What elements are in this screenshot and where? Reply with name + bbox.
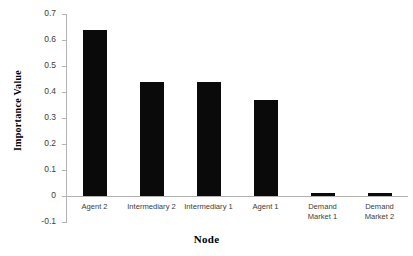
bar-group: Intermediary 2	[123, 14, 180, 222]
bars-layer: Agent 2Intermediary 2Intermediary 1Agent…	[66, 14, 408, 222]
y-axis-tick-label: 0.1	[44, 164, 56, 174]
plot-area: 0.70.60.50.40.30.20.10-0.1 Agent 2Interm…	[66, 14, 408, 222]
y-axis-tick-label: 0.4	[44, 86, 56, 96]
bar	[254, 100, 278, 196]
bar-group: Agent 1	[237, 14, 294, 222]
y-axis-tick-label: 0	[51, 190, 56, 200]
bar	[368, 193, 392, 196]
bar	[197, 82, 221, 196]
bar-group: Intermediary 1	[180, 14, 237, 222]
y-axis-title: Importance Value	[12, 46, 23, 176]
bar-group: Demand Market 1	[294, 14, 351, 222]
x-axis-category-label: Demand Market 2	[344, 202, 413, 221]
bar-chart: Importance Value 0.70.60.50.40.30.20.10-…	[0, 0, 413, 256]
bar-group: Demand Market 2	[351, 14, 408, 222]
y-axis-tick-label: 0.2	[44, 138, 56, 148]
bar	[311, 193, 335, 196]
bar	[140, 82, 164, 196]
y-axis-tick-label: -0.1	[41, 216, 56, 226]
y-axis-tick-label: 0.6	[44, 34, 56, 44]
bar	[83, 30, 107, 196]
bar-group: Agent 2	[66, 14, 123, 222]
y-axis-tick-label: 0.5	[44, 60, 56, 70]
y-axis-tick-label: 0.3	[44, 112, 56, 122]
x-axis-title: Node	[0, 233, 413, 245]
y-axis-tick: -0.1	[62, 222, 67, 223]
y-axis-tick-label: 0.7	[44, 8, 56, 18]
